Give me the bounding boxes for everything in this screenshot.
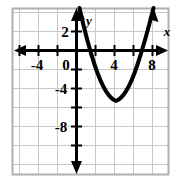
graph-figure: x y -4 0 4 8 2 -4 -8 [0,0,181,183]
x-tick-label-8: 8 [148,57,156,73]
x-tick-label-0: 0 [62,57,70,73]
y-tick-label-neg8: -8 [55,119,68,135]
coordinate-plane-graph: x y -4 0 4 8 2 -4 -8 [0,0,181,183]
y-tick-label-neg4: -4 [55,81,68,97]
x-axis-label: x [163,24,171,39]
x-tick-label-neg4: -4 [31,57,44,73]
y-tick-label-2: 2 [61,24,69,40]
x-tick-label-4: 4 [110,57,118,73]
y-axis-label: y [84,13,92,28]
